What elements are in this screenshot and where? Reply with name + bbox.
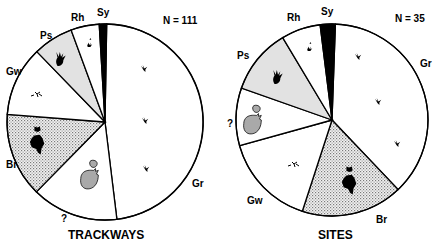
label-rh: Rh	[287, 12, 300, 23]
label-br: Br	[376, 214, 387, 225]
label-rh: Rh	[71, 12, 84, 23]
label-ps: Ps	[40, 30, 53, 41]
label-unknown: ?	[61, 213, 67, 224]
label-gr: Gr	[192, 178, 204, 189]
pie-sites: Sy Rh Ps ? Gw Br Gr N = 35 SITES	[227, 6, 432, 242]
label-br: Br	[6, 159, 17, 170]
n-count: N = 35	[395, 13, 425, 24]
slice-gr	[105, 24, 203, 219]
n-count: N = 111	[163, 15, 198, 26]
label-ps: Ps	[237, 50, 250, 61]
pie-trackways: Sy Rh Ps Gw Br ? Gr N = 111 TRACKWAYS	[6, 7, 204, 242]
figure: Sy Rh Ps Gw Br ? Gr N = 111 TRACKWAYS Sy…	[0, 0, 441, 244]
label-gw: Gw	[247, 195, 263, 206]
chart-title-trackways: TRACKWAYS	[68, 228, 144, 242]
chart-title-sites: SITES	[318, 228, 353, 242]
label-gw: Gw	[6, 66, 22, 77]
label-unknown: ?	[227, 118, 233, 129]
label-gr: Gr	[420, 58, 432, 69]
label-sy: Sy	[97, 7, 110, 18]
label-sy: Sy	[321, 6, 334, 17]
